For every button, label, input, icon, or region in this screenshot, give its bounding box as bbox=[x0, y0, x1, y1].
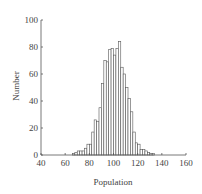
histogram-bar bbox=[75, 152, 77, 155]
histogram-bar bbox=[94, 120, 96, 155]
x-tick-label: 140 bbox=[155, 158, 169, 168]
x-axis-label: Population bbox=[93, 177, 133, 187]
x-tick-label: 80 bbox=[85, 158, 95, 168]
histogram-bar bbox=[109, 50, 111, 155]
histogram-bar bbox=[106, 62, 108, 155]
histogram-bar bbox=[80, 151, 82, 155]
y-tick-label: 60 bbox=[29, 69, 39, 79]
histogram-bar bbox=[82, 151, 84, 155]
histogram-bar bbox=[147, 152, 149, 155]
x-tick-label: 60 bbox=[61, 158, 71, 168]
x-tick-label: 100 bbox=[107, 158, 121, 168]
histogram-bar bbox=[126, 88, 128, 156]
histogram-bar bbox=[77, 151, 79, 155]
x-tick-label: 120 bbox=[131, 158, 145, 168]
y-ticks: 020406080100 bbox=[25, 15, 44, 160]
y-tick-label: 40 bbox=[29, 96, 39, 106]
histogram-bar bbox=[104, 61, 106, 156]
histogram-bar bbox=[99, 108, 101, 155]
histogram-bars bbox=[72, 42, 154, 155]
histogram-chart: 020406080100 406080100120140160 Populati… bbox=[0, 0, 202, 194]
histogram-bar bbox=[130, 112, 132, 155]
histogram-bar bbox=[118, 42, 120, 155]
histogram-bar bbox=[114, 55, 116, 155]
histogram-bar bbox=[92, 132, 94, 155]
y-tick-label: 80 bbox=[29, 42, 39, 52]
y-axis-label: Number bbox=[11, 71, 21, 101]
histogram-bar bbox=[133, 132, 135, 155]
histogram-bar bbox=[116, 48, 118, 155]
histogram-bar bbox=[128, 98, 130, 155]
histogram-bar bbox=[85, 148, 87, 155]
histogram-bar bbox=[123, 74, 125, 155]
histogram-bar bbox=[145, 151, 147, 155]
y-tick-label: 100 bbox=[25, 15, 39, 25]
histogram-bar bbox=[121, 67, 123, 155]
y-tick-label: 20 bbox=[29, 123, 39, 133]
histogram-bar bbox=[97, 121, 99, 155]
histogram-bar bbox=[140, 150, 142, 155]
x-tick-label: 160 bbox=[179, 158, 193, 168]
x-tick-label: 40 bbox=[37, 158, 47, 168]
histogram-bar bbox=[101, 83, 103, 155]
histogram-bar bbox=[111, 48, 113, 155]
histogram-bar bbox=[143, 150, 145, 155]
